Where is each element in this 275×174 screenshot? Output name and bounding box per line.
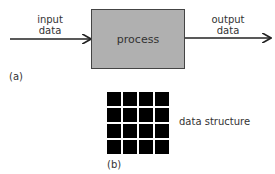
process-label: process	[117, 33, 159, 46]
caption-a: (a)	[9, 71, 23, 82]
data-structure-grid	[107, 92, 169, 154]
output-label-line2: data	[206, 25, 250, 36]
grid-cell	[155, 140, 169, 154]
grid-cell	[139, 92, 153, 106]
output-label-line1: output	[206, 14, 250, 25]
grid-cell	[155, 92, 169, 106]
grid-cell	[139, 108, 153, 122]
grid-cell	[107, 140, 121, 154]
caption-b: (b)	[107, 159, 121, 170]
grid-cell	[123, 124, 137, 138]
grid-cell	[123, 92, 137, 106]
input-label-line2: data	[30, 25, 70, 36]
grid-cell	[139, 124, 153, 138]
grid-cell	[107, 108, 121, 122]
input-data-label: input data	[30, 14, 70, 36]
grid-cell	[155, 124, 169, 138]
data-structure-label: data structure	[179, 116, 250, 127]
grid-cell	[107, 124, 121, 138]
output-data-label: output data	[206, 14, 250, 36]
process-box: process	[91, 9, 185, 69]
grid-cell	[155, 108, 169, 122]
grid-cell	[123, 140, 137, 154]
grid-cell	[107, 92, 121, 106]
grid-cell	[123, 108, 137, 122]
input-label-line1: input	[30, 14, 70, 25]
grid-cell	[139, 140, 153, 154]
